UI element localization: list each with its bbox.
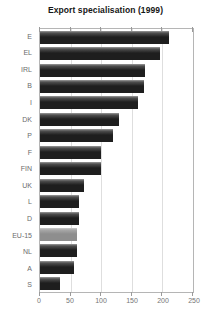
bar — [40, 162, 101, 175]
axis-tick-bottom — [192, 292, 193, 296]
bar — [40, 228, 77, 241]
y-axis-label: S — [0, 278, 36, 291]
y-axis-label: B — [0, 79, 36, 92]
axis-tick-bottom — [39, 292, 40, 296]
bar-row-b — [40, 80, 193, 93]
y-axis-label: EU-15 — [0, 229, 36, 242]
y-axis-label: P — [0, 129, 36, 142]
bar-row-f — [40, 146, 193, 159]
bar — [40, 31, 169, 44]
axis-tick-bottom — [161, 292, 162, 296]
bar — [40, 113, 119, 126]
y-axis-label: UK — [0, 179, 36, 192]
y-axis-label: L — [0, 195, 36, 208]
bar — [40, 212, 79, 225]
bar-row-eu-15 — [40, 228, 193, 241]
bar-rows — [40, 29, 193, 292]
bar-row-el — [40, 47, 193, 60]
bar — [40, 80, 144, 93]
y-axis-label: DK — [0, 113, 36, 126]
bar — [40, 64, 145, 77]
bar — [40, 96, 138, 109]
bar-row-s — [40, 277, 193, 290]
y-axis-label: F — [0, 146, 36, 159]
x-axis-label: 250 — [188, 297, 200, 304]
x-axis-label: 200 — [157, 297, 169, 304]
y-axis-labels: EELIRLBIDKPFFINUKLDEU-15NLAS — [0, 28, 36, 293]
bar-row-e — [40, 31, 193, 44]
y-axis-label: A — [0, 262, 36, 275]
bar — [40, 244, 77, 257]
bar-row-irl — [40, 64, 193, 77]
bar — [40, 146, 101, 159]
bar-row-i — [40, 96, 193, 109]
y-axis-label: I — [0, 96, 36, 109]
bar-row-nl — [40, 244, 193, 257]
bar — [40, 179, 84, 192]
bar — [40, 277, 60, 290]
chart-figure: Export specialisation (1999) EELIRLBIDKP… — [0, 0, 211, 329]
x-axis-label: 50 — [66, 297, 74, 304]
chart-title: Export specialisation (1999) — [0, 5, 211, 15]
bar — [40, 261, 74, 274]
x-axis-label: 150 — [126, 297, 138, 304]
y-axis-label: E — [0, 30, 36, 43]
x-axis-label: 100 — [95, 297, 107, 304]
y-axis-label: NL — [0, 245, 36, 258]
bar-row-p — [40, 129, 193, 142]
bar-row-dk — [40, 113, 193, 126]
plot-area — [39, 28, 194, 293]
bar — [40, 47, 160, 60]
bar-row-uk — [40, 179, 193, 192]
bar-row-d — [40, 212, 193, 225]
axis-tick-bottom — [131, 292, 132, 296]
bar — [40, 195, 79, 208]
axis-tick-bottom — [100, 292, 101, 296]
bar-row-l — [40, 195, 193, 208]
y-axis-label: FIN — [0, 162, 36, 175]
y-axis-label: D — [0, 212, 36, 225]
x-axis-labels: 050100150200250 — [39, 297, 194, 307]
axis-tick-bottom — [70, 292, 71, 296]
bar — [40, 129, 113, 142]
y-axis-label: IRL — [0, 63, 36, 76]
y-axis-label: EL — [0, 46, 36, 59]
x-axis-label: 0 — [37, 297, 41, 304]
bar-row-a — [40, 261, 193, 274]
bar-row-fin — [40, 162, 193, 175]
